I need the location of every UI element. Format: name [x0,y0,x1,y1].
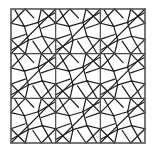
pinwheel-tiling-diagram [0,0,154,161]
figure-container: C [0,0,154,161]
